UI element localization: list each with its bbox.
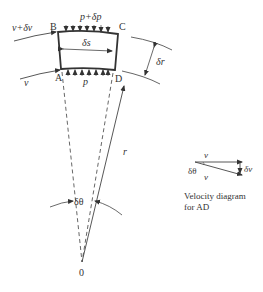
radius-line bbox=[82, 86, 124, 262]
velocity-top-label: v bbox=[204, 150, 208, 160]
radial-line-d bbox=[82, 73, 113, 262]
origin-label: 0 bbox=[79, 267, 84, 278]
fluid-element-diagram: B C A D 0 p+δp p v+δv v δs δr r δθ v v δ… bbox=[0, 0, 263, 292]
radial-gap-arrow bbox=[145, 47, 154, 75]
inner-velocity-label: v bbox=[24, 77, 29, 88]
radial-line-a bbox=[62, 72, 82, 262]
arc-length-arrow bbox=[63, 49, 112, 51]
inner-arc-right bbox=[122, 71, 160, 84]
angle-arc-left bbox=[50, 201, 73, 207]
angle-label: δθ bbox=[74, 196, 84, 207]
top-pressure-label: p+δp bbox=[79, 11, 101, 22]
point-d-label: D bbox=[115, 73, 122, 84]
velocity-bottom-label: v bbox=[204, 172, 208, 182]
velocity-caption-line1: Velocity diagram bbox=[184, 191, 246, 201]
point-b-label: B bbox=[50, 21, 57, 32]
bottom-pressure-label: p bbox=[82, 76, 88, 87]
bottom-pressure-arrows bbox=[68, 70, 108, 76]
velocity-diagram bbox=[195, 162, 242, 175]
outer-streamline bbox=[14, 32, 56, 41]
point-c-label: C bbox=[119, 21, 126, 32]
velocity-angle-label: δθ bbox=[188, 166, 197, 176]
outer-velocity-label: v+δv bbox=[12, 22, 33, 33]
radius-label: r bbox=[123, 146, 127, 157]
point-a-label: A bbox=[55, 72, 63, 83]
radial-gap-label: δr bbox=[156, 56, 165, 67]
arc-length-label: δs bbox=[82, 37, 91, 48]
angle-arc-right bbox=[95, 201, 122, 215]
velocity-caption-line2: for AD bbox=[184, 202, 210, 212]
outer-arc-right bbox=[131, 37, 172, 50]
velocity-diff-label: δv bbox=[244, 164, 252, 174]
